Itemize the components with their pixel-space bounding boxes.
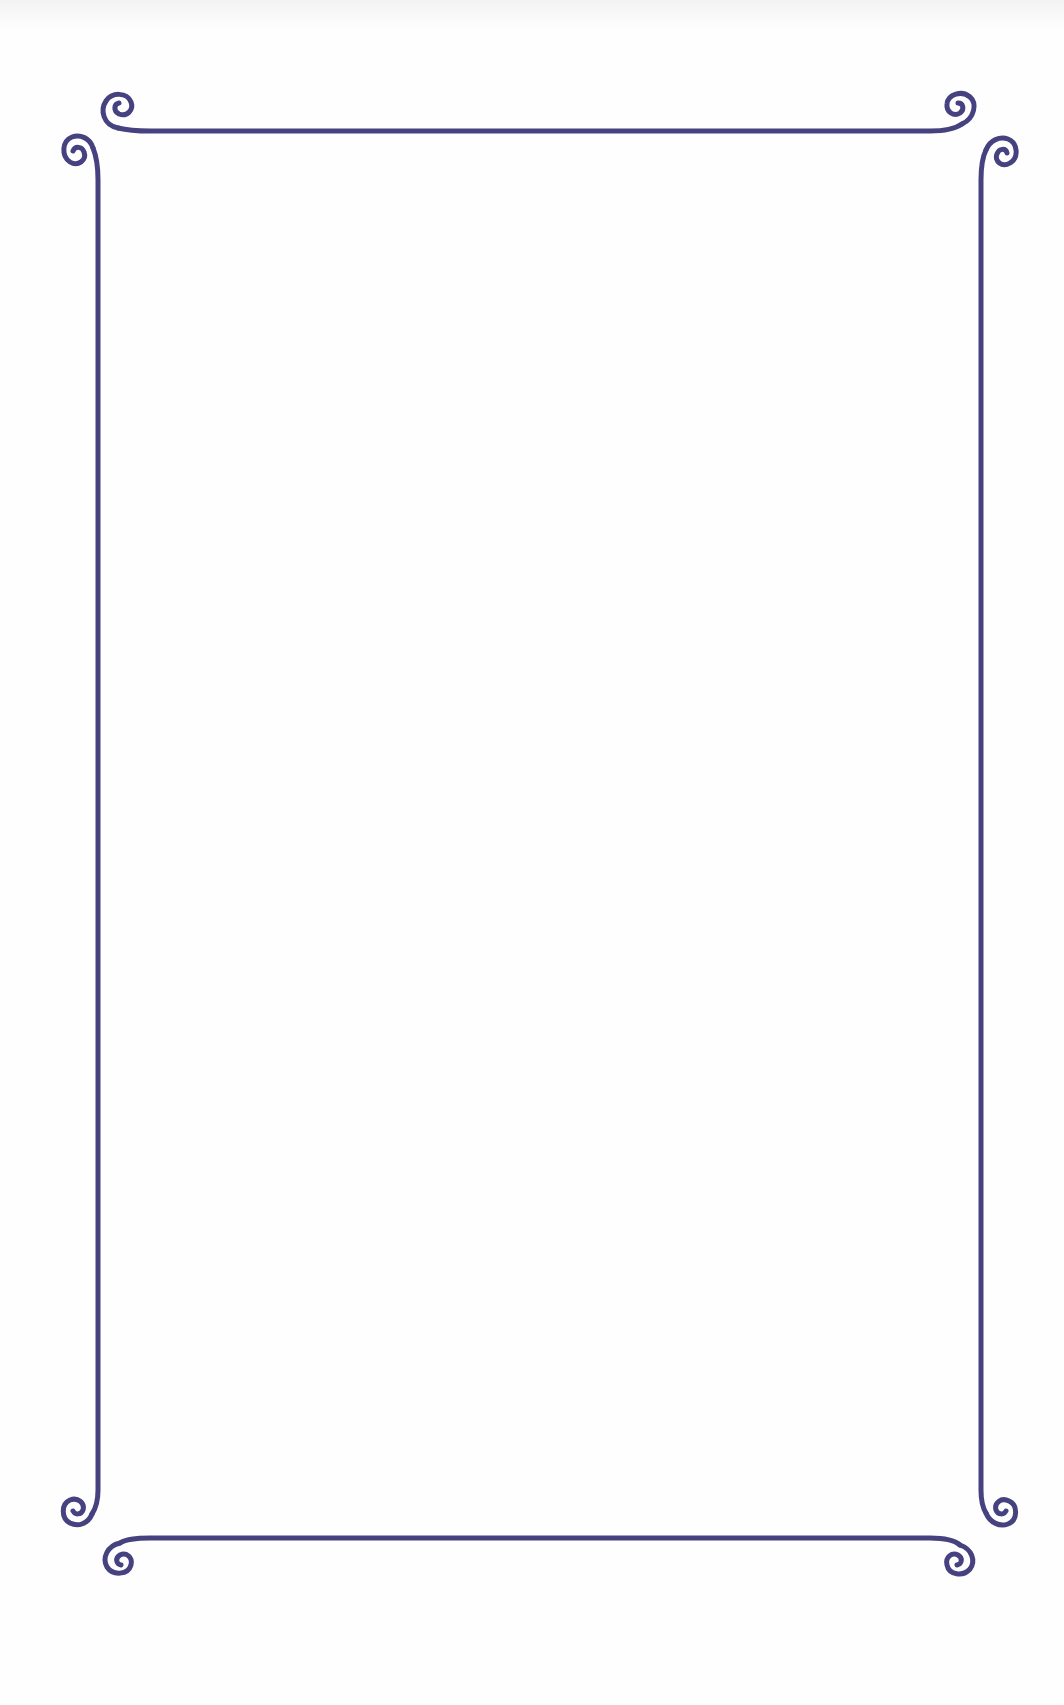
scroll-bottom-right-vertical-icon	[986, 1500, 1016, 1525]
scroll-top-right-horizontal-icon	[947, 93, 974, 124]
top-border-line	[118, 124, 962, 131]
scroll-bottom-right-horizontal-icon	[947, 1545, 973, 1574]
decorative-frame	[0, 0, 1064, 1705]
scroll-top-left-vertical-icon	[64, 136, 93, 164]
bottom-border-line	[120, 1538, 960, 1545]
scroll-top-right-vertical-icon	[986, 138, 1016, 165]
right-border-line	[981, 150, 986, 1513]
scroll-bottom-left-horizontal-icon	[105, 1543, 131, 1573]
scroll-bottom-left-vertical-icon	[63, 1499, 92, 1525]
blank-page	[0, 0, 1064, 1705]
left-border-line	[92, 148, 98, 1514]
scroll-top-left-horizontal-icon	[103, 94, 132, 128]
